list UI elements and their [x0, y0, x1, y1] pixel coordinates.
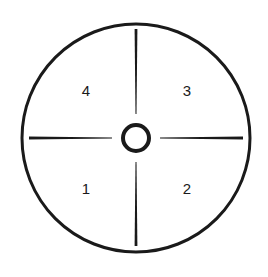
- quadrant-label-1: 1: [82, 180, 90, 197]
- quadrant-label-2: 2: [183, 180, 191, 197]
- divider-left: [29, 137, 112, 140]
- quadrant-label-3: 3: [183, 82, 191, 99]
- divider-top: [135, 29, 138, 114]
- center-ring: [123, 125, 149, 151]
- divider-bottom: [135, 162, 138, 246]
- quadrant-dial-diagram: 4 3 1 2: [0, 0, 268, 277]
- quadrant-label-4: 4: [82, 82, 90, 99]
- divider-right: [160, 137, 243, 140]
